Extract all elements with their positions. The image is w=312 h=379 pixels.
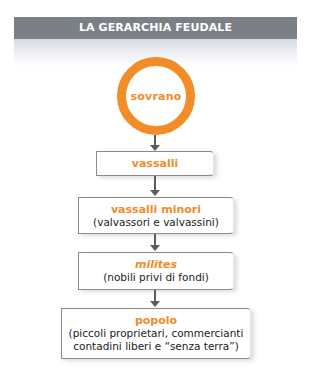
level-title: vassalli: [132, 157, 178, 170]
level-subtitle: (piccoli proprietari, commercianti: [69, 327, 244, 340]
level-popolo: popolo (piccoli proprietari, commerciant…: [61, 308, 251, 359]
sovrano-label: sovrano: [131, 90, 182, 103]
level-vassalli: vassalli: [96, 151, 214, 176]
level-title: popolo: [135, 314, 177, 327]
level-subtitle: contadini liberi e “senza terra”): [73, 340, 239, 353]
arrow-down-icon: [150, 176, 160, 197]
level-milites: milites (nobili privi di fondi): [78, 252, 234, 290]
level-title: milites: [135, 258, 177, 271]
sovrano-node: sovrano: [117, 57, 195, 135]
diagram-title-bar: LA GERARCHIA FEUDALE: [14, 17, 297, 39]
arrow-down-icon: [150, 290, 160, 308]
arrow-down-icon: [150, 234, 160, 252]
level-subtitle: (nobili privi di fondi): [103, 271, 209, 284]
level-vassalli-minori: vassalli minori (valvassori e valvassini…: [78, 197, 234, 234]
arrow-down-icon: [150, 135, 160, 151]
level-title: vassalli minori: [111, 203, 201, 216]
level-subtitle: (valvassori e valvassini): [93, 216, 219, 229]
diagram-title: LA GERARCHIA FEUDALE: [79, 21, 232, 34]
